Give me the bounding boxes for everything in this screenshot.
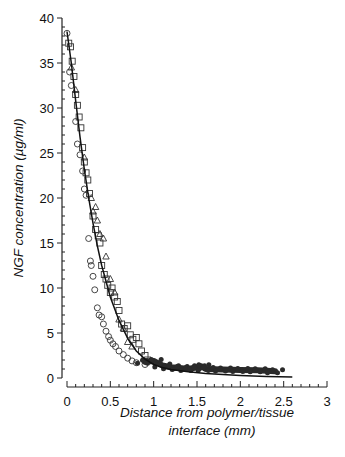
series-triangles xyxy=(68,64,135,349)
data-point xyxy=(265,370,270,375)
data-point xyxy=(206,368,211,373)
square-marker xyxy=(133,335,139,341)
y-tick-label: 5 xyxy=(47,326,54,341)
data-point xyxy=(270,367,275,372)
circle-marker xyxy=(100,321,106,327)
data-point xyxy=(159,357,164,362)
data-point xyxy=(280,367,285,372)
y-axis: 0510152025303540 xyxy=(40,11,65,386)
data-point xyxy=(201,365,206,370)
data-point xyxy=(175,364,180,369)
circle-marker xyxy=(86,236,92,242)
data-point xyxy=(275,370,280,375)
circle-marker xyxy=(94,305,100,311)
triangle-marker xyxy=(97,231,103,237)
data-point xyxy=(213,368,218,373)
data-point xyxy=(135,361,140,366)
y-tick-label: 25 xyxy=(40,146,54,161)
y-tick-label: 40 xyxy=(40,11,54,26)
plot-area xyxy=(64,30,292,377)
data-point xyxy=(196,362,201,367)
y-tick-label: 15 xyxy=(40,236,54,251)
x-tick-label: 3 xyxy=(323,394,330,409)
data-point xyxy=(235,366,240,371)
circle-marker xyxy=(106,334,112,340)
chart: 0510152025303540 00.511.522.53 NGF conce… xyxy=(0,0,345,457)
data-point xyxy=(248,369,253,374)
x-axis-label-line-2: interface (mm) xyxy=(168,423,255,438)
circle-marker xyxy=(92,287,98,293)
series-squares xyxy=(66,40,151,363)
data-point xyxy=(187,366,192,371)
y-axis-label: NGF concentration (µg/ml) xyxy=(11,118,26,277)
y-tick-label: 10 xyxy=(40,281,54,296)
y-tick-label: 20 xyxy=(40,191,54,206)
circle-marker xyxy=(74,141,80,147)
data-point xyxy=(206,362,211,367)
circle-marker xyxy=(125,355,131,361)
triangle-marker xyxy=(103,253,109,259)
data-point xyxy=(230,369,235,374)
y-tick-label: 35 xyxy=(40,56,54,71)
square-marker xyxy=(116,308,122,314)
data-point xyxy=(166,363,171,368)
circle-marker xyxy=(90,273,96,279)
data-point xyxy=(223,368,228,373)
data-point xyxy=(191,365,196,370)
triangle-marker xyxy=(94,217,100,223)
data-point xyxy=(258,369,263,374)
triangle-marker xyxy=(92,204,98,210)
series-circles xyxy=(64,30,148,367)
data-point xyxy=(218,365,223,370)
square-marker xyxy=(136,341,142,347)
x-tick-label: 0.5 xyxy=(101,394,119,409)
data-point xyxy=(240,369,245,374)
data-point xyxy=(253,366,258,371)
y-tick-label: 0 xyxy=(47,371,54,386)
x-tick-label: 0 xyxy=(63,394,70,409)
y-tick-label: 30 xyxy=(40,101,54,116)
x-axis-label-line-1: Distance from polymer/tissue xyxy=(120,405,294,420)
